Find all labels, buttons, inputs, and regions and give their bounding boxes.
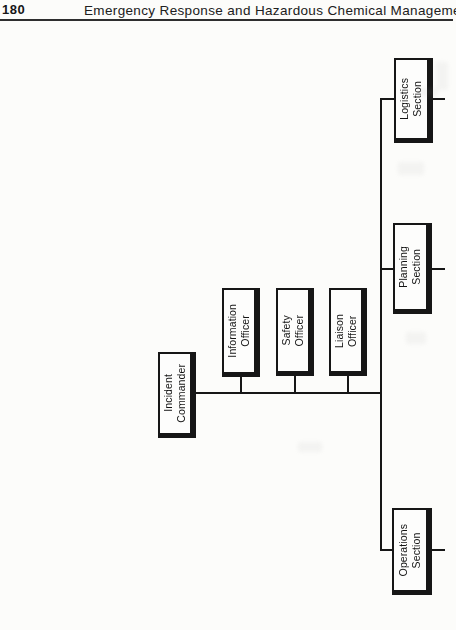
- node-label-incident-commander: Incident Commander: [162, 364, 188, 423]
- scan-artifact: [436, 62, 448, 90]
- connector-operations: [382, 549, 392, 551]
- node-liaison-officer: Liaison Officer: [329, 288, 367, 376]
- node-label-safety-officer: Safety Officer: [280, 315, 306, 346]
- node-label-logistics-section: Logistics Section: [398, 78, 424, 120]
- connector-sections-spine: [380, 98, 382, 551]
- connector-logistics-stub: [433, 98, 445, 100]
- connector-logistics: [382, 98, 394, 100]
- node-planning-section: Planning Section: [393, 223, 432, 314]
- book-page: 180 Emergency Response and Hazardous Che…: [0, 0, 456, 630]
- connector-operations-stub: [432, 549, 445, 551]
- node-label-planning-section: Planning Section: [397, 246, 423, 288]
- connector-liaison-officer: [347, 375, 349, 393]
- header-title: Emergency Response and Hazardous Chemica…: [84, 3, 454, 18]
- node-label-operations-section: Operations Section: [397, 524, 423, 576]
- connector-commander-main-line: [194, 392, 382, 394]
- node-information-officer: Information Officer: [222, 288, 260, 377]
- connector-planning-stub: [432, 268, 445, 270]
- connector-safety-officer: [294, 375, 296, 393]
- scan-artifact: [420, 88, 438, 96]
- node-safety-officer: Safety Officer: [276, 288, 314, 376]
- scan-artifact: [298, 442, 322, 452]
- connector-planning: [382, 268, 393, 270]
- connector-information-officer: [240, 376, 242, 393]
- node-label-information-officer: Information Officer: [226, 304, 252, 358]
- node-incident-commander: Incident Commander: [158, 352, 196, 438]
- scan-artifact: [406, 332, 426, 344]
- node-label-liaison-officer: Liaison Officer: [333, 314, 359, 348]
- scan-artifact: [398, 162, 424, 175]
- node-logistics-section: Logistics Section: [394, 58, 433, 143]
- header-rule: [0, 19, 453, 21]
- node-operations-section: Operations Section: [392, 508, 432, 595]
- page-number: 180: [2, 2, 25, 17]
